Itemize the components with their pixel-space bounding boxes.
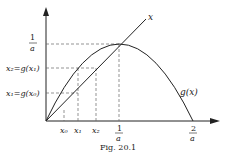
cobweb-diagram: x g(x) 1 a x₂=g(x₁) x₁=g(x₀) x₀ x₁ x₂ 1 … bbox=[0, 0, 225, 162]
y-label-x1: x₁=g(x₀) bbox=[6, 89, 40, 98]
x-label-1a-den: a bbox=[116, 134, 121, 143]
curve-label: g(x) bbox=[180, 87, 198, 97]
line-label: x bbox=[148, 12, 153, 22]
y-axis-arrow-icon bbox=[43, 7, 49, 16]
x-label-2a-num: 2 bbox=[191, 124, 196, 133]
x-label-2a-den: a bbox=[190, 134, 195, 143]
x-label-x1: x₁ bbox=[74, 126, 82, 135]
y-label-top-num: 1 bbox=[30, 33, 35, 42]
x-label-x2: x₂ bbox=[92, 126, 100, 135]
g-curve bbox=[46, 44, 193, 121]
x-label-1a-num: 1 bbox=[117, 124, 122, 133]
x-label-x0: x₀ bbox=[60, 126, 69, 135]
figure-caption: Fig. 20.1 bbox=[100, 143, 136, 152]
x-axis-arrow-icon bbox=[210, 118, 220, 124]
y-label-top-den: a bbox=[30, 44, 35, 53]
y-label-x2: x₂=g(x₁) bbox=[6, 64, 40, 73]
